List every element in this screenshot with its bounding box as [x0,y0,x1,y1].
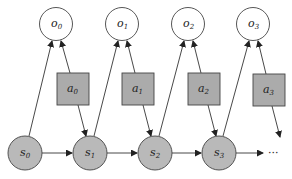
observation-node-o0: o0 [40,8,73,41]
state-node-s2: s2 [138,136,172,170]
state-node-s1: s1 [73,136,107,170]
action-to-observation-edges [61,41,266,74]
observation-node-o3: o3 [237,8,270,41]
pomdp-diagram: o0 o1 o2 o3 a0 a1 a2 a3 s0 s1 s2 [0,0,292,179]
action-to-state-edges [78,105,280,137]
continuation-ellipsis: ··· [268,147,279,160]
observation-node-o2: o2 [172,8,205,41]
action-node-a0: a0 [57,73,89,105]
action-node-a1: a1 [122,73,154,105]
observation-node-o1: o1 [106,8,139,41]
action-node-a3: a3 [253,74,285,106]
state-node-s0: s0 [8,136,42,170]
action-node-a2: a2 [188,73,220,105]
state-node-s3: s3 [202,136,236,170]
